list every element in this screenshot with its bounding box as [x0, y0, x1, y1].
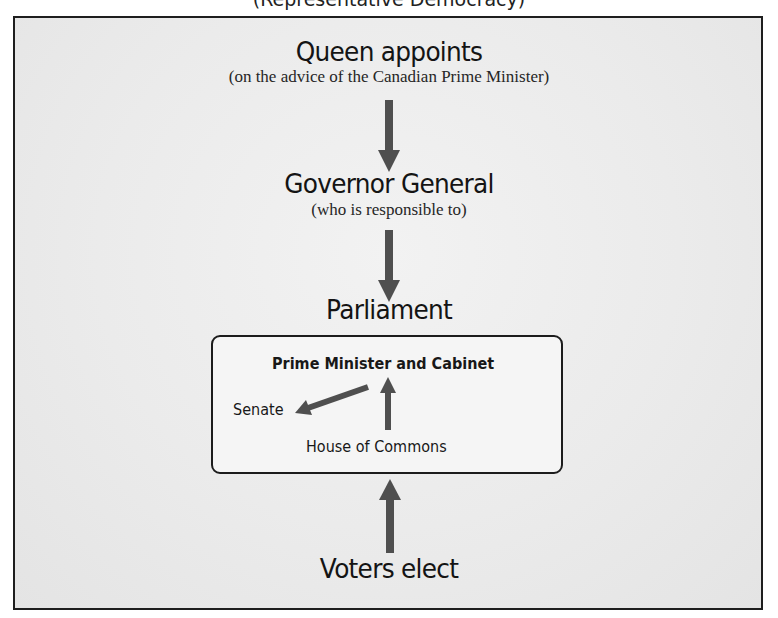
- queen-appoints-heading: Queen appoints: [31, 36, 747, 67]
- pm-cabinet-label: Prime Minister and Cabinet: [272, 355, 494, 373]
- parliament-heading: Parliament: [31, 294, 747, 325]
- governor-general-heading: Governor General: [31, 168, 747, 199]
- queen-advice-note: (on the advice of the Canadian Prime Min…: [0, 67, 778, 87]
- governor-responsible-note: (who is responsible to): [0, 200, 778, 220]
- top-caption-partial: (Representative Democracy): [0, 0, 778, 10]
- voters-elect-heading: Voters elect: [31, 553, 747, 584]
- house-of-commons-label: House of Commons: [306, 438, 447, 456]
- senate-label: Senate: [233, 401, 284, 419]
